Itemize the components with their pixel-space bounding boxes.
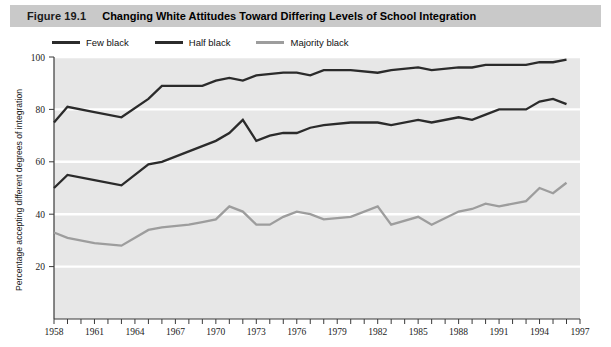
x-tick-label-1961: 1961 [85,327,104,337]
chart-plot: 20406080100 1958196119641967197019731976… [0,0,611,347]
x-tick-label-1979: 1979 [328,327,347,337]
y-tick-label-80: 80 [36,105,46,115]
x-tick-label-1958: 1958 [45,327,64,337]
x-axis: 1958196119641967197019731976197919821985… [45,319,590,337]
x-tick-label-1976: 1976 [287,327,306,337]
y-axis-label: Percentage accepting different degrees o… [14,89,24,291]
y-tick-label-40: 40 [36,210,46,220]
x-tick-label-1985: 1985 [409,327,428,337]
y-axis: 20406080100 [31,53,54,320]
x-tick-label-1994: 1994 [530,327,549,337]
figure-container: Figure 19.1 Changing White Attitudes Tow… [0,0,611,347]
x-tick-label-1982: 1982 [368,327,387,337]
plot-background [54,57,580,319]
x-tick-label-1973: 1973 [247,327,266,337]
x-tick-label-1964: 1964 [125,327,144,337]
x-tick-label-1988: 1988 [449,327,468,337]
x-tick-label-1991: 1991 [490,327,509,337]
y-tick-label-20: 20 [36,262,46,272]
y-tick-label-100: 100 [31,53,46,63]
x-tick-label-1967: 1967 [166,327,185,337]
y-tick-label-60: 60 [36,157,46,167]
x-tick-label-1997: 1997 [571,327,590,337]
x-tick-label-1970: 1970 [206,327,225,337]
